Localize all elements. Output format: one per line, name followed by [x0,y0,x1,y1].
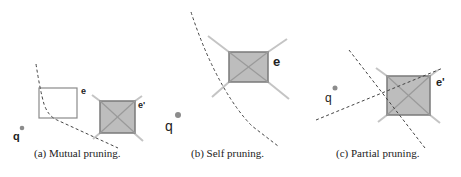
entry-e-label: e [273,54,280,69]
panel-b: q e [165,12,289,146]
query-point [20,126,25,131]
panel-a: q e e' [13,64,145,148]
entry-e-label: e [81,86,86,96]
query-point [175,112,181,118]
query-label: q [13,130,20,142]
query-label: q [325,91,332,105]
entry-e-prime-label: e' [138,100,145,110]
caption-c: (c) Partial pruning. [336,147,419,159]
caption-a: (a) Mutual pruning. [34,147,120,159]
query-point [333,86,338,91]
query-label: q [165,118,173,134]
panel-c: q e' [316,50,445,148]
caption-b: (b) Self pruning. [191,147,264,159]
entry-e-prime-label: e' [436,76,445,88]
entry-e-rect [39,88,77,118]
